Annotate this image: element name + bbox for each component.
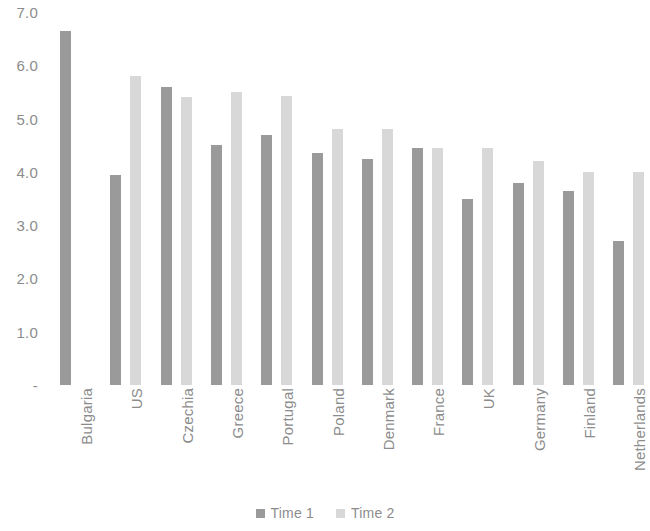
bar-time2 [482, 148, 493, 385]
bar-time2 [583, 172, 594, 385]
y-axis-tick-label: 1.0 [17, 323, 38, 340]
bar-time2 [533, 161, 544, 385]
legend-item[interactable]: Time 1 [256, 505, 314, 521]
x-axis-tick-label: France [430, 388, 447, 436]
x-axis-tick-label: Greece [229, 388, 246, 438]
y-axis-tick-label: 2.0 [17, 270, 38, 287]
bar-time1 [412, 148, 423, 385]
legend-swatch-icon [256, 509, 265, 518]
bar-time1 [161, 87, 172, 385]
bar-chart: -1.02.03.04.05.06.07.0 BulgariaUSCzechia… [0, 0, 650, 531]
bar-time1 [211, 145, 222, 385]
bar-time1 [362, 159, 373, 385]
bar-time2 [130, 76, 141, 385]
y-axis-tick-label: 5.0 [17, 110, 38, 127]
legend-label: Time 2 [351, 505, 394, 521]
bar-time2 [281, 96, 292, 385]
bar-time1 [110, 175, 121, 385]
legend-label: Time 1 [271, 505, 314, 521]
bar-time2 [231, 92, 242, 385]
y-axis: -1.02.03.04.05.06.07.0 [0, 0, 46, 397]
x-axis: BulgariaUSCzechiaGreecePortugalPolandDen… [46, 388, 650, 493]
bar-time1 [312, 153, 323, 385]
x-axis-tick-label: Germany [531, 388, 548, 451]
y-axis-tick-label: 3.0 [17, 217, 38, 234]
chart-legend: Time 1Time 2 [0, 505, 650, 521]
x-axis-tick-label: Bulgaria [78, 388, 95, 445]
y-axis-tick-label: 6.0 [17, 57, 38, 74]
x-axis-tick-label: Finland [581, 388, 598, 439]
bar-time1 [60, 31, 71, 385]
bar-time1 [563, 191, 574, 385]
plot-area [46, 12, 650, 385]
bar-time1 [261, 135, 272, 385]
x-axis-tick-label: Netherlands [631, 388, 648, 471]
bar-time2 [181, 97, 192, 385]
bar-time1 [462, 199, 473, 386]
bar-time2 [332, 129, 343, 385]
legend-item[interactable]: Time 2 [336, 505, 394, 521]
x-axis-tick-label: UK [480, 388, 497, 409]
y-axis-tick-label: - [33, 377, 38, 394]
x-axis-tick-label: US [128, 388, 145, 409]
x-axis-tick-label: Poland [330, 388, 347, 436]
x-axis-tick-label: Czechia [179, 388, 196, 444]
bar-time1 [613, 241, 624, 385]
bar-time2 [432, 148, 443, 385]
bar-time2 [382, 129, 393, 385]
y-axis-tick-label: 4.0 [17, 163, 38, 180]
bar-time1 [513, 183, 524, 385]
legend-swatch-icon [336, 509, 345, 518]
y-axis-tick-label: 7.0 [17, 4, 38, 21]
x-axis-tick-label: Denmark [380, 388, 397, 450]
x-axis-tick-label: Portugal [279, 388, 296, 445]
bar-time2 [633, 172, 644, 385]
